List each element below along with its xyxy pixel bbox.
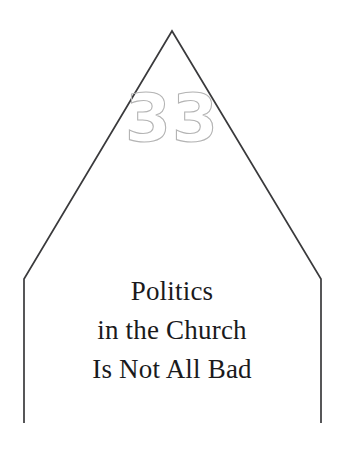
chapter-title-line-2: in the Church <box>0 311 344 350</box>
chapter-title-line-3: Is Not All Bad <box>0 350 344 389</box>
chapter-title: Politics in the Church Is Not All Bad <box>0 272 344 389</box>
chapter-title-line-1: Politics <box>0 272 344 311</box>
chapter-opener-page: 33 Politics in the Church Is Not All Bad <box>0 0 344 453</box>
